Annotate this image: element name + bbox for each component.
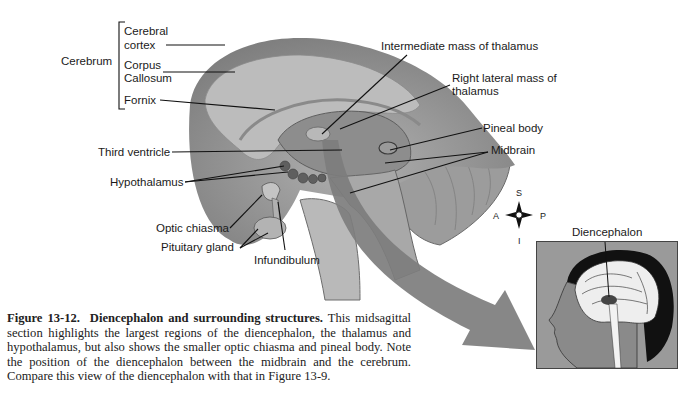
- compass-superior: S: [516, 187, 522, 199]
- label-pituitary-gland: Pituitary gland: [161, 241, 234, 253]
- label-fornix: Fornix: [124, 94, 156, 106]
- label-optic-chiasma: Optic chiasma: [156, 222, 229, 234]
- label-right-lateral-mass-line1: Right lateral mass of: [452, 72, 557, 84]
- label-corpus-callosum-line2: Callosum: [124, 72, 172, 84]
- figure-caption: Figure 13-12. Diencephalon and surroundi…: [7, 311, 411, 384]
- label-cerebrum: Cerebrum: [61, 55, 112, 67]
- head-inset-illustration: [536, 241, 678, 369]
- label-pineal-body: Pineal body: [483, 122, 543, 134]
- label-right-lateral-mass-line2: thalamus: [452, 85, 499, 97]
- label-cerebral-cortex-line2: cortex: [124, 39, 155, 51]
- intermediate-mass: [306, 127, 330, 141]
- figure-title: Diencephalon and surrounding structures.: [90, 311, 323, 325]
- label-cerebral-cortex-line1: Cerebral: [124, 25, 168, 37]
- compass-posterior: P: [540, 210, 546, 222]
- pineal-body: [379, 142, 397, 154]
- compass-inferior: I: [518, 235, 521, 247]
- label-diencephalon-inset: Diencephalon: [572, 226, 642, 238]
- label-third-ventricle: Third ventricle: [98, 146, 170, 158]
- compass-anterior: A: [493, 210, 499, 222]
- label-hypothalamus: Hypothalamus: [110, 176, 184, 188]
- head-profile-icon: [537, 242, 677, 368]
- label-corpus-callosum-line1: Corpus: [124, 59, 161, 71]
- label-midbrain: Midbrain: [491, 144, 535, 156]
- label-infundibulum: Infundibulum: [254, 254, 320, 266]
- label-intermediate-mass: Intermediate mass of thalamus: [381, 40, 538, 52]
- figure-number: Figure 13-12.: [7, 311, 80, 325]
- compass-rose-icon: [505, 201, 533, 229]
